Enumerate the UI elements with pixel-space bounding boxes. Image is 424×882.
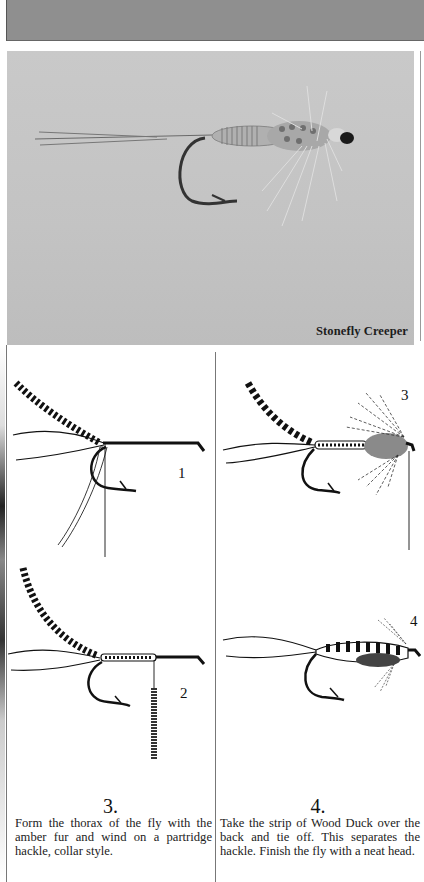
- figure-number: 1: [178, 465, 186, 482]
- fly-diagram-step-3-icon: [218, 355, 421, 565]
- figure-number: 3: [401, 387, 409, 404]
- step-4-number: 4.: [218, 795, 418, 818]
- figure-number: 4: [410, 613, 418, 630]
- photo-caption: Stonefly Creeper: [316, 324, 408, 339]
- step-3-number: 3.: [8, 795, 213, 818]
- figure-1: 1: [8, 355, 213, 560]
- fly-photo: Stonefly Creeper: [7, 51, 414, 345]
- page-edge-rule: [420, 51, 421, 341]
- stonefly-creeper-photo-icon: [7, 51, 414, 345]
- column-divider: [215, 352, 216, 882]
- figure-3: 3: [218, 355, 421, 565]
- top-gray-band: [6, 0, 424, 41]
- step-3-description: Form the thorax of the fly with the ambe…: [15, 816, 212, 858]
- page-gutter-shadow: [0, 345, 5, 882]
- figure-4: 4: [218, 570, 421, 770]
- figure-2: 2: [8, 560, 213, 765]
- fly-diagram-step-2-icon: [8, 560, 213, 765]
- fly-diagram-step-4-icon: [218, 570, 421, 770]
- fly-diagram-step-1-icon: [8, 355, 213, 560]
- left-column-rule: [6, 345, 7, 882]
- step-4-description: Take the strip of Wood Duck over the bac…: [220, 816, 420, 858]
- figure-number: 2: [180, 685, 188, 702]
